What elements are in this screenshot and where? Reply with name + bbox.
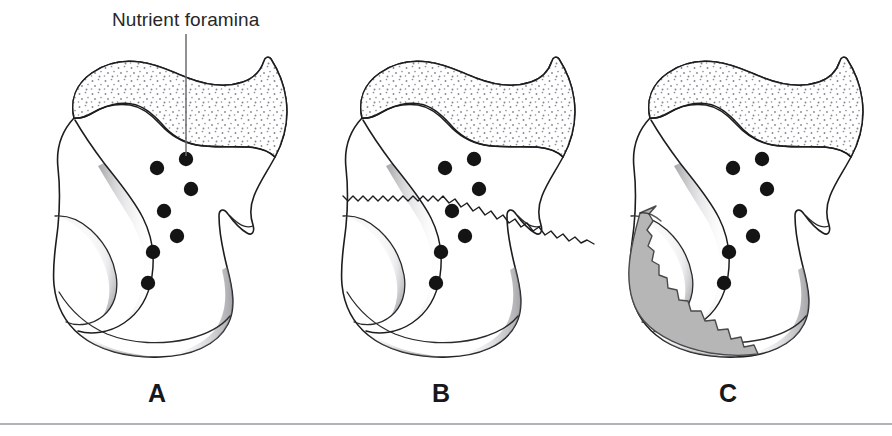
panel-a: [53, 57, 286, 357]
foramen-dot: [438, 161, 452, 175]
foramen-dot: [726, 161, 740, 175]
foramen-dot: [157, 204, 171, 218]
foramen-dot: [141, 276, 155, 290]
foramen-dot: [434, 245, 448, 259]
anatomical-figure: Nutrient foramina A B C: [0, 0, 892, 436]
panel-letter-c: C: [719, 379, 737, 407]
figure-container: Nutrient foramina A B C: [0, 0, 892, 436]
foramen-dot: [445, 204, 459, 218]
foramen-dot: [429, 276, 443, 290]
foramen-dot: [746, 229, 760, 243]
foramen-dot: [733, 204, 747, 218]
foramen-dot: [150, 161, 164, 175]
foramen-dot: [760, 182, 774, 196]
panel-letter-b: B: [432, 379, 450, 407]
panel-b: [341, 57, 594, 357]
foramen-dot: [755, 152, 769, 166]
foramen-dot: [472, 182, 486, 196]
foramen-dot: [467, 152, 481, 166]
foramen-dot: [458, 229, 472, 243]
panel-letter-a: A: [148, 379, 166, 407]
callout-label: Nutrient foramina: [112, 9, 260, 30]
foramen-dot: [717, 276, 731, 290]
foramen-dot: [184, 182, 198, 196]
foramen-dot: [170, 229, 184, 243]
foramen-dot: [722, 245, 736, 259]
foramen-dot: [146, 245, 160, 259]
